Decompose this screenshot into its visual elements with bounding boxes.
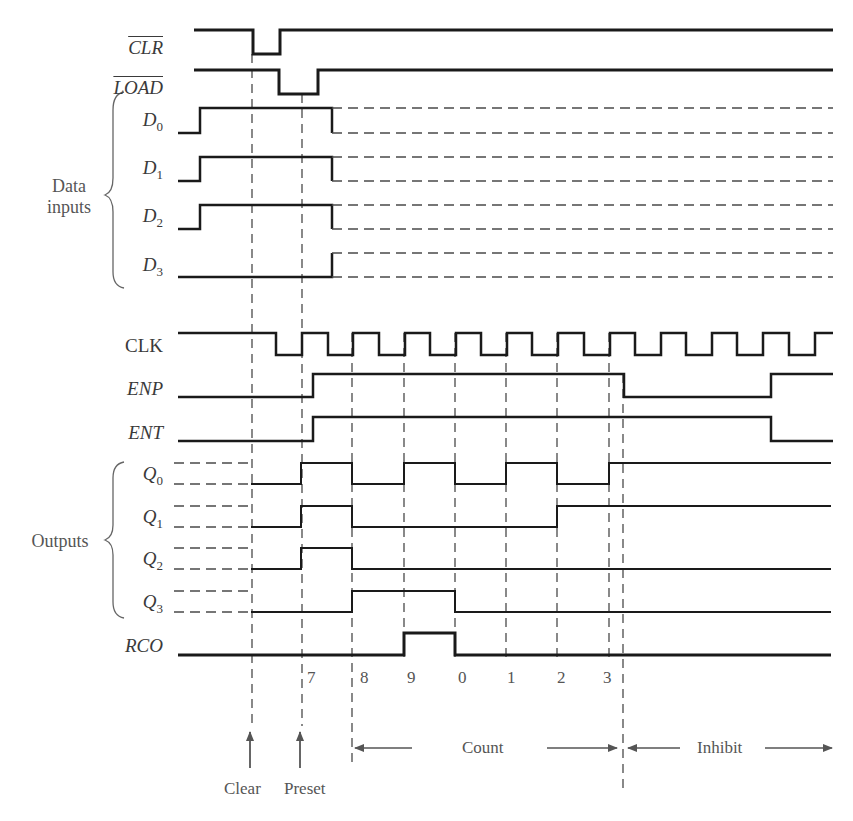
d0-label: D0 xyxy=(143,110,163,133)
data-inputs-line2: inputs xyxy=(34,197,104,218)
q0-label: Q0 xyxy=(143,464,163,487)
q1-waveform xyxy=(174,506,831,527)
load-label-text: LOAD xyxy=(113,77,163,98)
count-value: 7 xyxy=(307,668,316,688)
clr-label-text: CLR xyxy=(128,37,163,58)
clk-label-text: CLK xyxy=(125,335,163,356)
inhibit-label: Inhibit xyxy=(697,738,742,758)
d2-label-text: D xyxy=(143,205,157,226)
d0-subscript: 0 xyxy=(157,119,164,134)
q1-subscript: 1 xyxy=(157,516,164,531)
d1-label: D1 xyxy=(143,158,163,181)
d2-label: D2 xyxy=(143,206,163,229)
d3-subscript: 3 xyxy=(157,264,164,279)
load-waveform xyxy=(194,70,833,94)
q3-label-text: Q xyxy=(143,591,157,612)
d0-label-text: D xyxy=(143,109,157,130)
clr-waveform xyxy=(194,30,833,54)
d2-subscript: 2 xyxy=(157,215,164,230)
data-inputs-line1: Data xyxy=(34,176,104,197)
waveform-canvas xyxy=(0,0,853,821)
q3-subscript: 3 xyxy=(157,601,164,616)
q0-subscript: 0 xyxy=(157,473,164,488)
d0-waveform xyxy=(178,108,833,133)
annotations xyxy=(250,732,832,768)
q0-label-text: Q xyxy=(143,463,157,484)
q3-label: Q3 xyxy=(143,592,163,615)
rco-waveform xyxy=(178,633,831,655)
clear-label: Clear xyxy=(224,779,261,799)
load-label: LOAD xyxy=(113,78,163,97)
rco-label: RCO xyxy=(125,636,163,655)
clr-label: CLR xyxy=(128,38,163,57)
q3-waveform xyxy=(174,591,831,612)
q1-label-text: Q xyxy=(143,506,157,527)
q0-waveform xyxy=(174,463,831,484)
q2-label-text: Q xyxy=(143,548,157,569)
d1-waveform xyxy=(178,157,833,181)
count-value: 3 xyxy=(603,668,612,688)
d3-label-text: D xyxy=(143,254,157,275)
count-value: 9 xyxy=(407,668,416,688)
data-inputs-group-label: Data inputs xyxy=(34,176,104,217)
count-value: 1 xyxy=(507,668,516,688)
q1-label: Q1 xyxy=(143,507,163,530)
d2-waveform xyxy=(178,205,833,229)
outputs-label: Outputs xyxy=(18,531,102,552)
ent-label: ENT xyxy=(128,423,163,442)
enp-label-text: ENP xyxy=(127,378,163,399)
q2-subscript: 2 xyxy=(157,558,164,573)
timing-diagram: CLRLOADD0D1D2D3CLKENPENTQ0Q1Q2Q3RCO Data… xyxy=(0,0,853,821)
outputs-brace xyxy=(105,462,124,618)
d3-label: D3 xyxy=(143,255,163,278)
count-value: 2 xyxy=(557,668,566,688)
clk-label: CLK xyxy=(125,336,163,355)
rco-label-text: RCO xyxy=(125,635,163,656)
preset-label: Preset xyxy=(284,779,326,799)
outputs-group-label: Outputs xyxy=(18,531,102,552)
waveforms xyxy=(174,30,833,655)
q2-waveform xyxy=(174,548,831,569)
q2-label: Q2 xyxy=(143,549,163,572)
enp-label: ENP xyxy=(127,379,163,398)
data-inputs-brace xyxy=(105,92,124,288)
count-value: 8 xyxy=(360,668,369,688)
count-value: 0 xyxy=(458,668,467,688)
d3-waveform xyxy=(178,253,833,277)
d1-subscript: 1 xyxy=(157,167,164,182)
group-braces xyxy=(105,92,124,618)
ent-label-text: ENT xyxy=(128,422,163,443)
count-label: Count xyxy=(462,738,504,758)
d1-label-text: D xyxy=(143,157,157,178)
